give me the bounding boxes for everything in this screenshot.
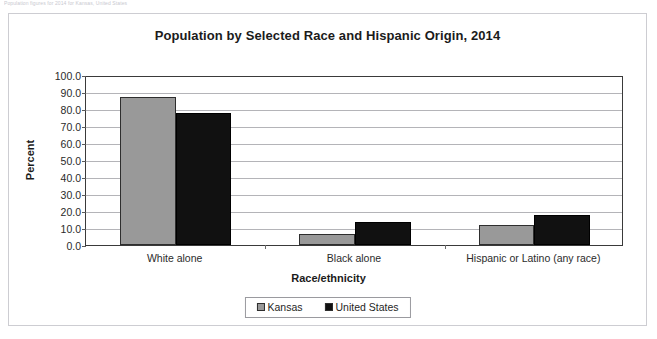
category-separator bbox=[265, 245, 266, 249]
x-axis-category-label: White alone bbox=[147, 252, 202, 264]
page-top-note: Population figures for 2014 for Kansas, … bbox=[4, 0, 334, 7]
legend-swatch-icon bbox=[256, 303, 264, 311]
x-axis-category-label: Black alone bbox=[327, 252, 381, 264]
x-axis-title: Race/ethnicity bbox=[9, 272, 648, 284]
chart-container: Population by Selected Race and Hispanic… bbox=[8, 13, 647, 326]
x-axis-category-labels: White aloneBlack aloneHispanic or Latino… bbox=[85, 252, 623, 268]
y-axis-tick-label: 50.0 bbox=[61, 155, 81, 167]
y-axis-tick-label: 40.0 bbox=[61, 172, 81, 184]
bar bbox=[355, 222, 411, 245]
bar bbox=[534, 215, 590, 245]
y-axis-tick-label: 30.0 bbox=[61, 189, 81, 201]
bars-layer bbox=[86, 77, 622, 245]
y-axis-tick-label: 90.0 bbox=[61, 87, 81, 99]
chart-title: Population by Selected Race and Hispanic… bbox=[9, 28, 646, 43]
bar bbox=[120, 97, 176, 245]
y-axis-tick-label: 0.0 bbox=[66, 240, 81, 252]
bar bbox=[299, 234, 355, 245]
y-axis-tick-label: 60.0 bbox=[61, 138, 81, 150]
y-axis-tick-label: 10.0 bbox=[61, 223, 81, 235]
y-axis-tick-label: 20.0 bbox=[61, 206, 81, 218]
bar bbox=[479, 225, 535, 245]
category-separator bbox=[445, 245, 446, 249]
y-axis-tick-label: 100.0 bbox=[55, 70, 81, 82]
legend-item[interactable]: Kansas bbox=[256, 301, 302, 313]
bar bbox=[176, 113, 232, 245]
legend-item-label: Kansas bbox=[267, 301, 302, 313]
y-axis-tick-label: 80.0 bbox=[61, 104, 81, 116]
legend-swatch-icon bbox=[324, 303, 332, 311]
legend-item-label: United States bbox=[335, 301, 398, 313]
chart-legend: KansasUnited States bbox=[244, 297, 410, 318]
x-axis-category-label: Hispanic or Latino (any race) bbox=[466, 252, 600, 264]
y-axis-tick-label: 70.0 bbox=[61, 121, 81, 133]
plot-area bbox=[85, 76, 623, 246]
legend-item[interactable]: United States bbox=[324, 301, 398, 313]
y-axis-tick-mark bbox=[82, 246, 86, 247]
plot-wrapper: Percent 0.010.020.030.040.050.060.070.08… bbox=[9, 76, 648, 254]
y-axis-tick-labels: 0.010.020.030.040.050.060.070.080.090.01… bbox=[33, 76, 81, 246]
